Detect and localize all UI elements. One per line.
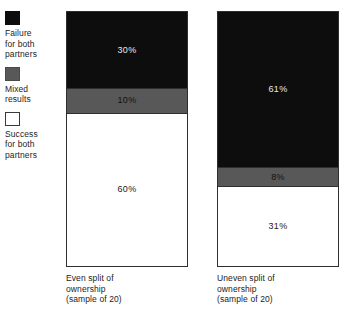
bar-segment-success: 31% <box>218 187 338 266</box>
bar-segment-success: 60% <box>67 114 187 266</box>
bar-segment-mixed: 10% <box>67 88 187 113</box>
bar-segment-mixed: 8% <box>218 167 338 187</box>
segment-value-label: 60% <box>118 185 137 194</box>
segment-value-label: 10% <box>118 96 137 105</box>
bar-group-even-split: 30% 10% 60% Even split of ownership (sam… <box>66 11 188 305</box>
stacked-bar: 30% 10% 60% <box>66 11 188 267</box>
bar-caption: Even split of ownership (sample of 20) <box>66 273 188 305</box>
stacked-bar-chart: 30% 10% 60% Even split of ownership (sam… <box>0 0 346 313</box>
segment-value-label: 30% <box>118 46 137 55</box>
bar-group-uneven-split: 61% 8% 31% Uneven split of ownership (sa… <box>217 11 339 305</box>
segment-value-label: 8% <box>271 173 285 182</box>
stacked-bar: 61% 8% 31% <box>217 11 339 267</box>
bar-caption: Uneven split of ownership (sample of 20) <box>217 273 339 305</box>
segment-value-label: 31% <box>269 222 288 231</box>
bar-segment-failure: 61% <box>218 12 338 167</box>
segment-value-label: 61% <box>269 85 288 94</box>
bar-segment-failure: 30% <box>67 12 187 88</box>
